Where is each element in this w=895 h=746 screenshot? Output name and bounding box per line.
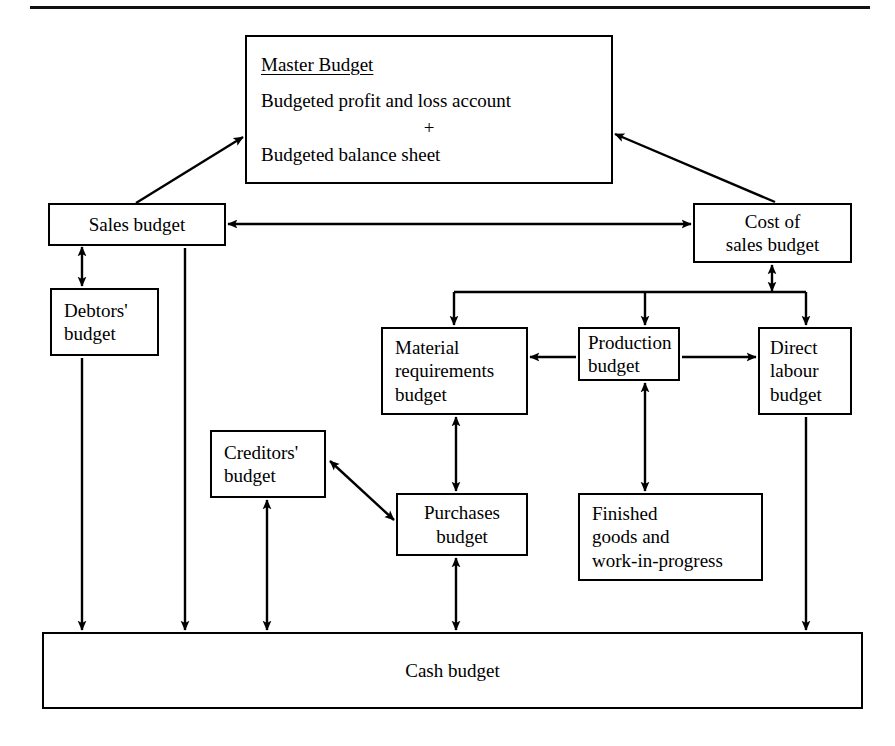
purchases-budget-label-1: Purchases	[424, 501, 500, 524]
finished-goods-label-2: goods and	[592, 525, 670, 548]
cash-budget-node[interactable]: Cash budget	[42, 632, 863, 709]
direct-labour-budget-label-2: labour	[770, 359, 819, 382]
master-budget-plus: +	[424, 116, 435, 139]
purchases-budget-label-2: budget	[436, 525, 488, 548]
cash-budget-label: Cash budget	[405, 659, 499, 682]
material-requirements-budget-label-2: requirements	[395, 359, 494, 382]
production-budget-label-1: Production	[588, 331, 671, 354]
cost-of-sales-budget-label-1: Cost of	[745, 210, 800, 233]
cost-of-sales-budget-label-2: sales budget	[726, 233, 819, 256]
creditors-budget-node[interactable]: Creditors' budget	[210, 430, 326, 498]
debtors-budget-node[interactable]: Debtors' budget	[50, 288, 159, 356]
debtors-budget-label-1: Debtors'	[64, 299, 128, 322]
finished-goods-label-3: work-in-progress	[592, 549, 723, 572]
material-requirements-budget-node[interactable]: Material requirements budget	[381, 327, 528, 415]
direct-labour-budget-label-1: Direct	[770, 336, 817, 359]
creditors-budget-label-1: Creditors'	[224, 441, 298, 464]
sales-budget-label: Sales budget	[89, 213, 186, 236]
cost-of-sales-budget-node[interactable]: Cost of sales budget	[693, 203, 852, 263]
debtors-budget-label-2: budget	[64, 322, 116, 345]
master-budget-line-4: Budgeted balance sheet	[261, 143, 440, 166]
direct-labour-budget-node[interactable]: Direct labour budget	[758, 327, 852, 415]
connector-sales-budget-to-master-budget	[136, 137, 243, 203]
material-requirements-budget-label-1: Material	[395, 336, 459, 359]
creditors-budget-label-2: budget	[224, 464, 276, 487]
production-budget-label-2: budget	[588, 354, 640, 377]
sales-budget-node[interactable]: Sales budget	[48, 203, 226, 246]
master-budget-title: Master Budget	[261, 53, 373, 76]
top-rule	[30, 6, 870, 9]
master-budget-line-2: Budgeted profit and loss account	[261, 89, 511, 112]
direct-labour-budget-label-3: budget	[770, 383, 822, 406]
connector-cost-of-sales-to-master-budget	[615, 134, 775, 202]
master-budget-node[interactable]: Master Budget Budgeted profit and loss a…	[245, 35, 613, 184]
production-budget-node[interactable]: Production budget	[578, 327, 680, 381]
material-requirements-budget-label-3: budget	[395, 383, 447, 406]
finished-goods-and-work-in-progress-node[interactable]: Finished goods and work-in-progress	[578, 493, 763, 581]
finished-goods-label-1: Finished	[592, 502, 657, 525]
budget-flow-diagram-page: Master Budget Budgeted profit and loss a…	[0, 0, 895, 746]
purchases-budget-node[interactable]: Purchases budget	[396, 493, 528, 556]
connector-creditors-to-purchases	[330, 461, 394, 520]
